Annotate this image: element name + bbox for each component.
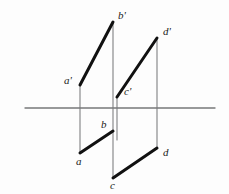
vertex-label-d_prime: d' (163, 26, 171, 37)
seg-cd-top (113, 148, 157, 178)
seg-cd-front (117, 38, 157, 97)
seg-ab-top (80, 131, 113, 153)
vertex-label-d: d (163, 147, 169, 158)
projection-diagram: a'b'c'd'abcd (0, 0, 229, 194)
seg-ab-front (80, 22, 113, 85)
vertex-label-a: a (76, 156, 82, 167)
vertex-label-b_prime: b' (118, 10, 126, 21)
line-segments (80, 22, 157, 178)
vertex-label-b: b (101, 119, 107, 130)
diagram-canvas (0, 0, 229, 194)
vertex-label-c_prime: c' (124, 86, 131, 97)
vertex-label-a_prime: a' (64, 75, 72, 86)
vertex-label-c: c (110, 180, 115, 191)
